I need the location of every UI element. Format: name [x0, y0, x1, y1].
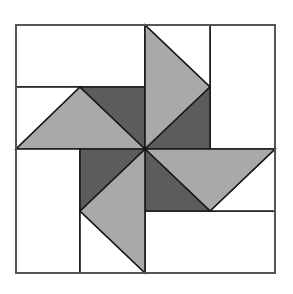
pinwheel-quilt-block — [0, 0, 293, 294]
top-right-white-rect — [210, 25, 275, 149]
top-left-white-rect — [16, 25, 145, 87]
bottom-right-white-rect — [145, 211, 275, 273]
center-point — [143, 147, 147, 151]
bottom-left-white-rect — [16, 149, 80, 273]
